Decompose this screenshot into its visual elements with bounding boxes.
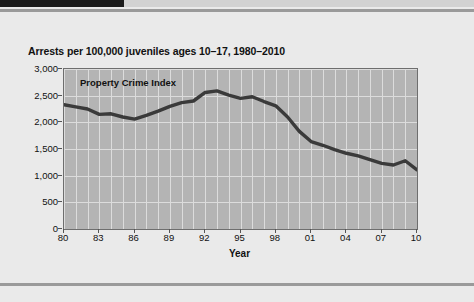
x-axis-tick-label: 92 xyxy=(199,232,210,243)
y-axis-tick-mark xyxy=(58,95,62,96)
series-inline-label: Property Crime Index xyxy=(80,77,176,88)
y-axis-tick-mark xyxy=(58,121,62,122)
x-axis-tick-label: 07 xyxy=(375,232,386,243)
x-axis-tick-label: 10 xyxy=(411,232,422,243)
x-axis-title: Year xyxy=(63,248,416,259)
chart-figure: Arrests per 100,000 juveniles ages 10–17… xyxy=(0,12,474,283)
y-axis-tick-label: 1,500 xyxy=(34,143,58,154)
x-axis-tick-mark xyxy=(134,229,135,233)
footer-divider-rule xyxy=(0,283,474,286)
series-line-property-crime-index xyxy=(64,69,417,229)
chart-title: Arrests per 100,000 juveniles ages 10–17… xyxy=(28,45,285,57)
y-axis-tick-label: 1,000 xyxy=(34,169,58,180)
x-axis-tick-mark xyxy=(416,229,417,233)
page-root: Arrests per 100,000 juveniles ages 10–17… xyxy=(0,0,474,302)
x-axis-labels: 8083868992959801040710 xyxy=(63,232,416,248)
plot-inner xyxy=(64,69,417,229)
x-axis-tick-mark xyxy=(169,229,170,233)
x-axis-tick-label: 80 xyxy=(58,232,69,243)
y-axis-tick-mark xyxy=(58,175,62,176)
y-axis-tick-label: 3,000 xyxy=(34,63,58,74)
y-axis-tick-mark xyxy=(58,228,62,229)
y-axis-labels: 05001,0001,5002,0002,5003,000 xyxy=(0,68,58,228)
x-axis-tick-mark xyxy=(310,229,311,233)
y-axis-tick-mark xyxy=(58,148,62,149)
x-axis-tick-label: 04 xyxy=(340,232,351,243)
y-axis-tick-mark xyxy=(58,68,62,69)
x-axis-tick-mark xyxy=(275,229,276,233)
x-axis-tick-label: 95 xyxy=(234,232,245,243)
x-axis-tick-mark xyxy=(240,229,241,233)
y-axis-tick-label: 2,000 xyxy=(34,116,58,127)
x-axis-tick-mark xyxy=(98,229,99,233)
x-axis-tick-label: 98 xyxy=(270,232,281,243)
x-axis-tick-mark xyxy=(63,229,64,233)
y-axis-tick-mark xyxy=(58,201,62,202)
header-accent-bar-dark xyxy=(0,0,124,7)
x-axis-tick-mark xyxy=(204,229,205,233)
x-axis-tick-label: 83 xyxy=(93,232,104,243)
y-axis-tick-label: 2,500 xyxy=(34,89,58,100)
x-axis-tick-label: 89 xyxy=(164,232,175,243)
x-axis-tick-label: 01 xyxy=(305,232,316,243)
plot-area: Property Crime Index xyxy=(63,68,418,230)
x-axis-tick-mark xyxy=(381,229,382,233)
x-axis-tick-label: 86 xyxy=(128,232,139,243)
x-axis-tick-mark xyxy=(345,229,346,233)
header-accent-bar-light xyxy=(124,0,474,7)
y-axis-tick-label: 500 xyxy=(42,196,58,207)
